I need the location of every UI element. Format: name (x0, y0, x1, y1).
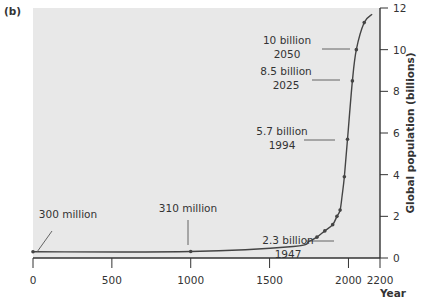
data-point (346, 137, 350, 141)
x-tick-label: 1000 (177, 274, 204, 286)
data-point (355, 48, 359, 52)
y-tick-label: 2 (393, 210, 400, 222)
annotation-label: 2025 (273, 79, 300, 91)
y-tick-label: 12 (393, 2, 406, 14)
annotation-label: 5.7 billion (256, 125, 307, 137)
y-tick-label: 6 (393, 127, 400, 139)
x-tick-label: 1500 (256, 274, 283, 286)
annotation-label: 300 million (39, 208, 97, 220)
data-point (351, 79, 355, 83)
annotation-label: 1994 (269, 139, 296, 151)
data-point (338, 208, 342, 212)
annotation-label: 310 million (159, 202, 217, 214)
y-axis-label: Global population (billions) (404, 52, 416, 213)
plot-area (33, 8, 380, 258)
data-point (323, 229, 327, 233)
panel-label: (b) (4, 5, 21, 17)
x-tick-label: 0 (30, 274, 37, 286)
annotation-label: 2050 (274, 48, 301, 60)
y-tick-label: 8 (393, 85, 400, 97)
x-tick-label: 2200 (367, 274, 394, 286)
y-tick-label: 4 (393, 169, 400, 181)
data-point (31, 250, 35, 254)
annotation-label: 2.3 billion (262, 234, 313, 246)
data-point (343, 175, 347, 179)
data-point (189, 250, 193, 254)
y-tick-label: 0 (393, 252, 400, 264)
x-tick-label: 500 (102, 274, 122, 286)
annotation-label: 1947 (275, 248, 302, 260)
x-axis-label: Year (379, 287, 407, 299)
data-point (315, 235, 319, 239)
annotation-label: 8.5 billion (260, 65, 311, 77)
x-tick-label: 2000 (335, 274, 362, 286)
data-point (331, 223, 335, 227)
annotation-label: 10 billion (263, 34, 311, 46)
data-point (362, 21, 366, 25)
data-point (335, 215, 339, 219)
population-chart: (b) 05001000150020002200024681012 300 mi… (0, 0, 421, 300)
